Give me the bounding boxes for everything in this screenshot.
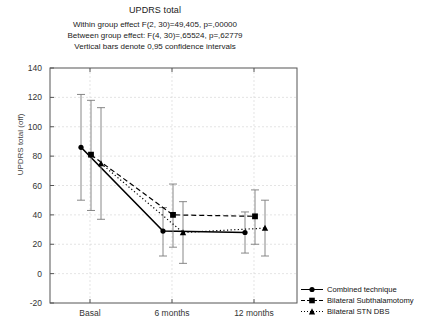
chart-figure: UPDRS total Within group effect F(2, 30)… (0, 0, 436, 330)
data-point-square (170, 212, 176, 218)
chart-subtitle-line-3: Vertical bars denote 0,95 confidence int… (0, 42, 310, 51)
legend-item-label: Combined technique (324, 285, 397, 294)
y-axis-tick: -20 (12, 298, 42, 308)
data-point-triangle (262, 225, 268, 231)
data-point-circle (242, 230, 247, 235)
legend-item[interactable]: Combined technique (300, 284, 414, 295)
chart-title: UPDRS total (0, 5, 310, 15)
data-point-circle (78, 145, 83, 150)
y-axis-tick: 100 (12, 122, 42, 132)
y-axis-tick: 60 (12, 181, 42, 191)
series-0 (77, 94, 249, 256)
chart-subtitle-line-2: Between group effect: F(4, 30)=,65524, p… (0, 31, 310, 40)
y-axis-tick: 40 (12, 210, 42, 220)
series-1 (87, 100, 259, 247)
y-axis-tick: 140 (12, 63, 42, 73)
y-axis-tick: 120 (12, 92, 42, 102)
data-point-square (88, 152, 94, 158)
legend-item-label: Bilateral STN DBS (324, 307, 389, 316)
y-axis-tick: 0 (12, 269, 42, 279)
y-axis-label: UPDRS total (off) (16, 95, 25, 195)
data-point-circle (160, 228, 165, 233)
x-axis-tick: 12 months (219, 308, 289, 318)
x-axis-tick: 6 months (137, 308, 207, 318)
x-axis-tick: Basal (55, 308, 125, 318)
chart-legend: Combined technique Bilateral Subthalamot… (300, 284, 414, 317)
triangle-marker-icon (300, 306, 324, 317)
circle-marker-icon (300, 284, 324, 295)
legend-item[interactable]: Bilateral Subthalamotomy (300, 295, 414, 306)
chart-subtitle-line-1: Within group effect F(2, 30)=49,405, p=,… (0, 20, 310, 29)
data-point-square (252, 213, 258, 219)
y-axis-tick: 80 (12, 151, 42, 161)
legend-item-label: Bilateral Subthalamotomy (324, 296, 414, 305)
square-marker-icon (300, 295, 324, 306)
legend-item[interactable]: Bilateral STN DBS (300, 306, 414, 317)
y-axis-tick: 20 (12, 239, 42, 249)
